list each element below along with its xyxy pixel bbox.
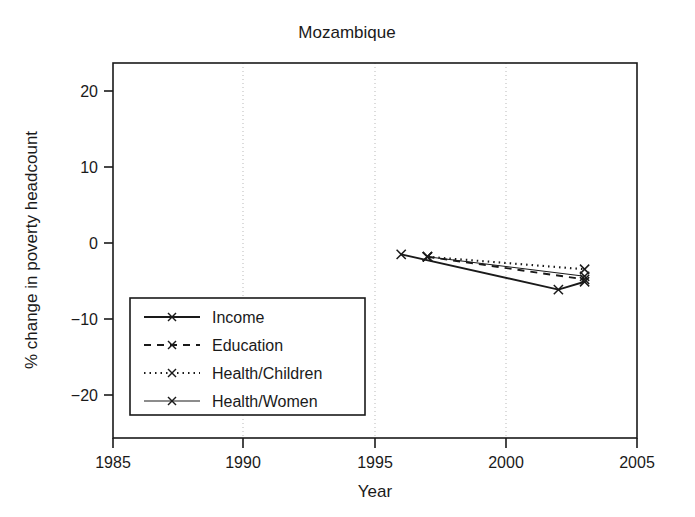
legend-label-health-children: Health/Children bbox=[212, 365, 322, 382]
x-tick-label-1985: 1985 bbox=[95, 454, 131, 471]
y-tick-label-neg10: −10 bbox=[71, 311, 98, 328]
x-tick-label-2005: 2005 bbox=[619, 454, 655, 471]
chart-title: Mozambique bbox=[298, 23, 395, 42]
series-health-women bbox=[423, 252, 589, 281]
x-tickmarks bbox=[113, 438, 637, 448]
y-tick-label-10: 10 bbox=[80, 159, 98, 176]
x-tick-labels: 1985 1990 1995 2000 2005 bbox=[95, 454, 655, 471]
x-tick-label-1990: 1990 bbox=[225, 454, 261, 471]
y-tick-label-neg20: −20 bbox=[71, 387, 98, 404]
y-tick-labels: 20 10 0 −10 −20 bbox=[71, 83, 98, 404]
series-line-income bbox=[401, 254, 584, 289]
series-layer bbox=[397, 250, 590, 294]
y-tickmarks bbox=[104, 91, 113, 395]
legend: Income Education Health/Children bbox=[130, 298, 365, 415]
y-tick-label-20: 20 bbox=[80, 83, 98, 100]
legend-label-health-women: Health/Women bbox=[212, 393, 318, 410]
line-chart: Mozambique 20 10 0 −10 −20 bbox=[0, 0, 695, 517]
legend-label-education: Education bbox=[212, 337, 283, 354]
y-axis-title: % change in poverty headcount bbox=[22, 131, 41, 369]
x-axis-title: Year bbox=[358, 482, 393, 501]
x-tick-label-2000: 2000 bbox=[488, 454, 524, 471]
legend-label-income: Income bbox=[212, 309, 265, 326]
x-tick-label-1995: 1995 bbox=[357, 454, 393, 471]
chart-figure: Mozambique 20 10 0 −10 −20 bbox=[0, 0, 695, 517]
y-tick-label-0: 0 bbox=[89, 235, 98, 252]
series-income bbox=[397, 250, 590, 294]
